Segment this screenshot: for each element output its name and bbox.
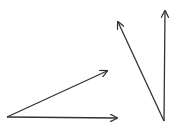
angles-diagram [0,0,185,130]
vertical-ray-arrow [164,11,165,121]
upper-ray-arrow [7,71,107,117]
acute-angle-right [118,11,165,121]
acute-angle-left [7,71,117,118]
horizontal-ray-arrow [7,117,117,118]
angles-group [7,11,165,121]
slanted-ray-arrow [118,22,164,121]
